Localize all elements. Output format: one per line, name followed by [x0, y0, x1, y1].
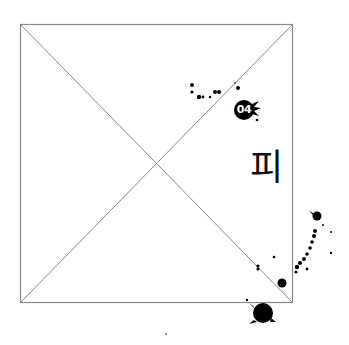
hangul-glyph: 피: [250, 148, 283, 188]
ink-splatter-top: [190, 82, 240, 99]
artwork-canvas: [0, 0, 349, 345]
ink-blot-bottom: [165, 303, 276, 335]
number-badge: 04: [233, 103, 255, 116]
ink-splatter-right: [246, 211, 332, 301]
